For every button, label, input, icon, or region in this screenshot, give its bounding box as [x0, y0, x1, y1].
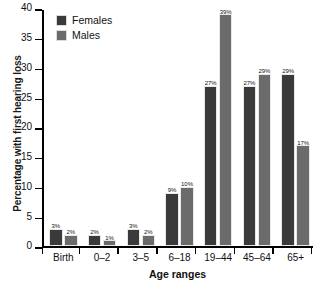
- bar-value-label: 9%: [168, 187, 177, 193]
- chart-legend: Females Males: [56, 13, 112, 43]
- y-axis-tick: 10: [35, 188, 42, 189]
- y-axis-tick: 15: [35, 158, 42, 159]
- bar-value-label: 27%: [205, 80, 217, 86]
- bar-females-5: 27%: [243, 86, 257, 247]
- bar-males-4: 39%: [219, 14, 233, 246]
- y-axis-tick-label: 5: [26, 211, 32, 222]
- plot-area: 05101520253035403%2%2%1%3%2%9%10%27%39%2…: [42, 10, 313, 248]
- legend-label-females: Females: [72, 14, 112, 26]
- bar-value-label: 2%: [67, 229, 76, 235]
- hearing-loss-bar-chart: Percentage with first hearing loss 05101…: [0, 0, 321, 290]
- bar-value-label: 29%: [258, 68, 270, 74]
- bar-value-label: 29%: [282, 68, 294, 74]
- y-axis-tick-label: 35: [21, 32, 32, 43]
- bar-value-label: 1%: [105, 235, 114, 241]
- bar-value-label: 2%: [144, 229, 153, 235]
- y-axis-tick: 5: [35, 218, 42, 219]
- bar-females-0: 3%: [49, 229, 63, 247]
- bar-males-1: 1%: [103, 240, 117, 246]
- legend-label-males: Males: [72, 29, 100, 41]
- y-axis-tick-label: 40: [21, 2, 32, 13]
- x-axis-label-3: 6–18: [168, 252, 190, 263]
- x-axis-tick: [156, 248, 157, 254]
- x-axis-label-4: 19–44: [204, 252, 232, 263]
- x-axis-tick: [234, 248, 235, 254]
- x-axis-label-2: 3–5: [132, 252, 149, 263]
- bar-value-label: 3%: [129, 223, 138, 229]
- bar-males-2: 2%: [142, 235, 156, 247]
- y-axis-tick: 40: [35, 9, 42, 10]
- x-axis-tick: [42, 248, 43, 254]
- x-axis-tick: [195, 248, 196, 254]
- bar-value-label: 2%: [90, 229, 99, 235]
- y-axis-tick: 0: [35, 247, 42, 248]
- bar-females-4: 27%: [204, 86, 218, 247]
- y-axis-tick: 30: [35, 69, 42, 70]
- y-axis-tick: 25: [35, 99, 42, 100]
- bar-females-1: 2%: [88, 235, 102, 247]
- y-axis-line: [42, 10, 44, 248]
- legend-item-males: Males: [56, 28, 112, 42]
- y-axis-tick: 20: [35, 128, 42, 129]
- y-axis-tick-label: 20: [21, 121, 32, 132]
- legend-item-females: Females: [56, 13, 112, 27]
- bar-value-label: 10%: [181, 181, 193, 187]
- x-axis-tick: [79, 248, 80, 254]
- bar-value-label: 39%: [220, 9, 232, 15]
- bar-value-label: 27%: [243, 80, 255, 86]
- bar-males-3: 10%: [180, 187, 194, 247]
- x-axis-label-0: Birth: [53, 252, 74, 263]
- y-axis-tick: 35: [35, 39, 42, 40]
- y-axis-tick-label: 10: [21, 181, 32, 192]
- y-axis-tick-label: 0: [26, 240, 32, 251]
- y-axis-tick-label: 30: [21, 62, 32, 73]
- x-axis-label-5: 45–64: [243, 252, 271, 263]
- females-swatch-icon: [56, 15, 67, 26]
- bar-value-label: 17%: [297, 140, 309, 146]
- x-axis-tick: [311, 248, 312, 254]
- x-axis-title: Age ranges: [42, 268, 313, 280]
- bar-females-3: 9%: [165, 193, 179, 247]
- bar-females-2: 3%: [127, 229, 141, 247]
- males-swatch-icon: [56, 30, 67, 41]
- bar-males-0: 2%: [64, 235, 78, 247]
- bar-value-label: 3%: [52, 223, 61, 229]
- x-axis-label-1: 0–2: [94, 252, 111, 263]
- x-axis-tick: [272, 248, 273, 254]
- bar-males-6: 17%: [296, 145, 310, 246]
- y-axis-title: Percentage with first hearing loss: [12, 19, 23, 249]
- bar-females-6: 29%: [281, 74, 295, 247]
- y-axis-tick-label: 15: [21, 151, 32, 162]
- x-axis-tick: [117, 248, 118, 254]
- y-axis-tick-label: 25: [21, 92, 32, 103]
- x-axis-label-6: 65+: [287, 252, 304, 263]
- bar-males-5: 29%: [258, 74, 272, 247]
